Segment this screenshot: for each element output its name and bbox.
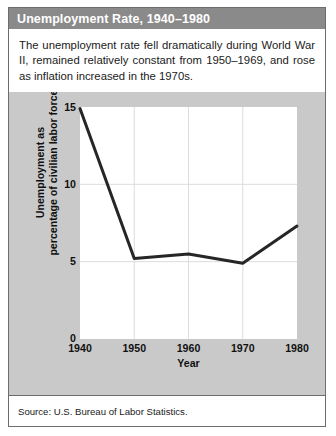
x-tick-1950: 1950 xyxy=(111,342,157,354)
x-axis-title: Year xyxy=(80,357,297,369)
page-title: Unemployment Rate, 1940–1980 xyxy=(17,12,210,26)
data-line xyxy=(80,107,297,339)
y-tick-10: 10 xyxy=(54,179,76,189)
figure-title-bar: Unemployment Rate, 1940–1980 xyxy=(9,8,325,29)
source-text: Source: U.S. Bureau of Labor Statistics. xyxy=(18,406,188,417)
x-tick-1980: 1980 xyxy=(274,342,320,354)
source-bar: Source: U.S. Bureau of Labor Statistics. xyxy=(9,395,325,426)
plot-area xyxy=(80,107,297,339)
x-tick-1940: 1940 xyxy=(57,342,103,354)
chart-panel: Unemployment as percentage of civilian l… xyxy=(9,92,325,395)
figure-container: Unemployment Rate, 1940–1980 The unemplo… xyxy=(8,7,326,427)
figure-caption: The unemployment rate fell dramatically … xyxy=(9,29,325,92)
y-axis-title-line-1: Unemployment as xyxy=(34,127,46,218)
x-tick-1970: 1970 xyxy=(220,342,266,354)
y-tick-5: 5 xyxy=(54,256,76,266)
x-axis-ticks: 1940 1950 1960 1970 1980 xyxy=(80,342,297,356)
y-axis-ticks: 15 10 5 0 xyxy=(50,107,76,339)
y-tick-15: 15 xyxy=(54,102,76,112)
x-tick-1960: 1960 xyxy=(166,342,212,354)
